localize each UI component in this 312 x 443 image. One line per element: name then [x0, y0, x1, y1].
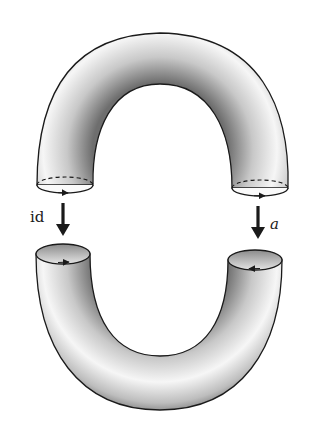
- top-half-tube: [37, 33, 288, 196]
- bottom-left-end-circle: [36, 244, 90, 264]
- down-arrow-icon: [56, 224, 70, 236]
- map-a: a: [251, 206, 279, 239]
- map-id: id: [30, 203, 70, 236]
- map-label-a: a: [270, 215, 279, 233]
- bottom-half-tube: [36, 244, 282, 410]
- down-arrow-icon: [251, 227, 265, 239]
- map-label-id: id: [30, 208, 45, 226]
- torus-gluing-diagram: id a: [0, 0, 312, 443]
- bottom-right-end-circle: [228, 250, 282, 270]
